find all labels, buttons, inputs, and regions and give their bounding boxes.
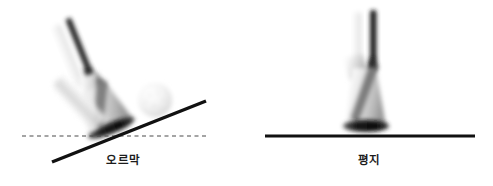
caption-flat: 평지 [246,155,493,167]
golf-lie-angle-comparison-figure: 오르막 [0,0,493,186]
golf-ball-uphill [138,83,172,117]
panel-flat: 평지 [246,0,493,186]
caption-uphill: 오르막 [0,155,247,167]
panel-uphill: 오르막 [0,0,247,186]
club-flat [343,10,389,132]
